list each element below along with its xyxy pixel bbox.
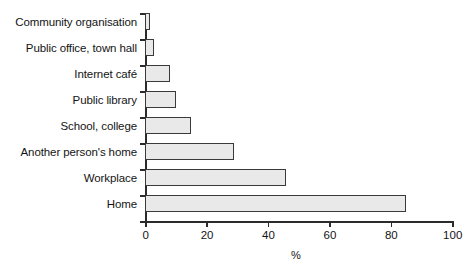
x-axis-tick-label: 40 [249, 229, 289, 242]
x-axis-tick [206, 221, 208, 227]
bar [145, 117, 191, 134]
x-axis-tick-label: 0 [126, 229, 166, 242]
x-axis-tick [452, 221, 454, 227]
y-axis-tick-label: Public office, town hall [0, 43, 137, 55]
x-axis-line [145, 221, 454, 223]
x-axis-title: % [276, 249, 316, 261]
y-axis-tick-label: Internet café [0, 69, 137, 81]
y-axis-tick-label: Public library [0, 95, 137, 107]
bar [145, 65, 170, 82]
x-axis-tick-label: 60 [310, 229, 350, 242]
y-axis-tick-label: Workplace [0, 173, 137, 185]
plot-area [145, 13, 452, 221]
x-axis-tick [329, 221, 331, 227]
bar [145, 39, 154, 56]
x-axis-tick [268, 221, 270, 227]
y-axis-tick-label: Community organisation [0, 17, 137, 29]
y-axis-tick-label: Another person's home [0, 147, 137, 159]
y-axis-category-labels: Community organisation Public office, to… [0, 13, 137, 221]
bar [145, 143, 234, 160]
bar [145, 13, 150, 30]
x-axis-tick-label: 100 [433, 229, 473, 242]
bar [145, 195, 406, 212]
bar [145, 91, 176, 108]
x-axis-tick [391, 221, 393, 227]
bar-chart: Community organisation Public office, to… [0, 0, 476, 272]
x-axis-tick-label: 80 [371, 229, 411, 242]
bar [145, 169, 286, 186]
x-axis-tick [145, 221, 147, 227]
y-axis-tick-label: School, college [0, 121, 137, 133]
y-axis-tick-label: Home [0, 199, 137, 211]
x-axis-tick-label: 20 [187, 229, 227, 242]
